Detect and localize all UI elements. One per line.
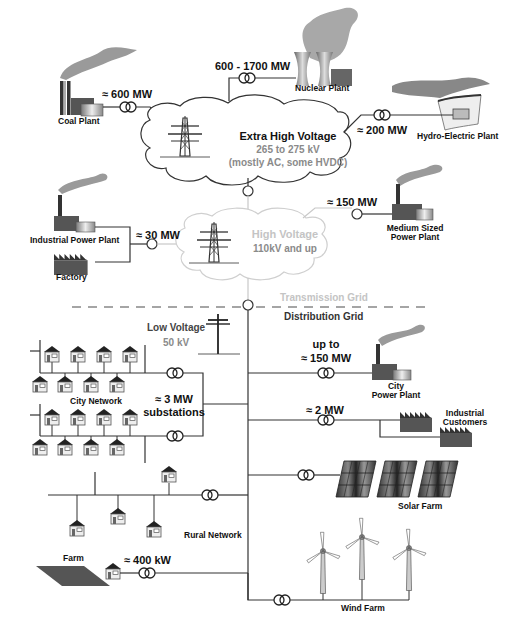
medium-power-plant-icon <box>392 165 442 220</box>
industrial-customers-label-2: Customers <box>435 418 495 427</box>
hydro-plant-label: Hydro-Electric Plant <box>417 132 498 141</box>
farm-power: ≈ 400 kW <box>124 554 171 566</box>
industrial-power-plant-power: ≈ 30 MW <box>136 229 180 241</box>
ehv-note: (mostly AC, some HVDC) <box>208 157 368 168</box>
power-grid-diagram: Coal Plant ≈ 600 MW 600 - 1700 MW Nuclea… <box>0 0 514 639</box>
coal-plant-label: Coal Plant <box>58 117 100 126</box>
hydro-electric-plant-icon <box>392 77 490 130</box>
city-power-plant-power-1: up to <box>296 338 356 350</box>
factory-label: Factory <box>56 273 87 282</box>
low-voltage-title: Low Voltage <box>147 322 205 333</box>
rural-network-label: Rural Network <box>184 531 242 540</box>
distribution-grid-label: Distribution Grid <box>284 311 363 322</box>
industrial-customers-power: ≈ 2 MW <box>306 404 344 416</box>
nuclear-plant-icon <box>294 8 358 86</box>
rural-network-houses <box>48 466 202 537</box>
city-power-plant-power-2: ≈ 150 MW <box>294 352 358 364</box>
city-network-label: City Network <box>70 397 122 406</box>
wind-farm-label: Wind Farm <box>341 604 385 613</box>
city-power-plant-label-2: Power Plant <box>366 391 426 400</box>
nuclear-plant-label: Nuclear Plant <box>295 84 349 93</box>
coal-plant-power: ≈ 600 MW <box>102 88 152 100</box>
farm-field <box>36 566 110 586</box>
solar-farm-label: Solar Farm <box>398 502 442 511</box>
nuclear-plant-power: 600 - 1700 MW <box>215 60 290 72</box>
city-power-plant-icon <box>372 325 425 380</box>
utility-pole-icon <box>198 314 240 354</box>
transmission-grid-label: Transmission Grid <box>280 292 368 303</box>
hv-title: High Voltage <box>240 228 330 240</box>
farm-label: Farm <box>63 554 84 563</box>
hv-range: 110kV and up <box>236 243 334 254</box>
wind-turbines-icon <box>307 518 426 593</box>
city-substations-power: ≈ 3 MW <box>142 393 206 405</box>
hydro-plant-power: ≈ 200 MW <box>357 124 407 136</box>
medium-plant-power: ≈ 150 MW <box>327 196 377 208</box>
solar-panels-icon <box>336 461 458 497</box>
low-voltage-range: 50 kV <box>163 337 189 348</box>
industrial-power-plant-label: Industrial Power Plant <box>30 236 119 245</box>
industrial-power-plant-icon <box>54 173 107 232</box>
medium-plant-label-2: Power Plant <box>378 233 452 242</box>
ehv-range: 265 to 275 kV <box>218 144 358 155</box>
city-substations-label: substations <box>140 406 208 418</box>
ehv-title: Extra High Voltage <box>218 130 358 142</box>
